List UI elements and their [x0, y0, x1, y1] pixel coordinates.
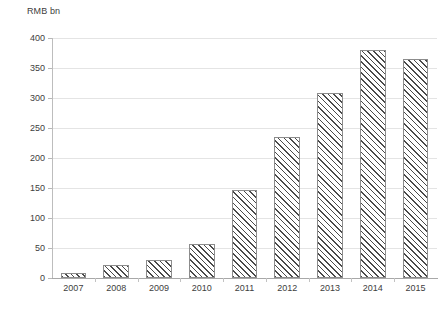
x-tick-label: 2015 — [394, 283, 437, 294]
bar-slot — [266, 38, 309, 278]
bar[interactable] — [103, 265, 129, 278]
x-tick-labels-group: 200720082009201020112012201320142015 — [52, 283, 437, 299]
bar-slot — [180, 38, 223, 278]
y-tick-label: 50 — [35, 244, 45, 253]
x-tick-mark — [394, 278, 395, 282]
bar-slot — [394, 38, 437, 278]
bar[interactable] — [146, 260, 172, 278]
x-tick-mark — [266, 278, 267, 282]
y-tick-label: 0 — [40, 274, 45, 283]
x-tick-mark — [138, 278, 139, 282]
x-tick-label: 2010 — [180, 283, 223, 294]
x-tick-mark — [95, 278, 96, 282]
bar[interactable] — [360, 50, 386, 278]
bar[interactable] — [232, 190, 258, 278]
x-tick-mark — [180, 278, 181, 282]
x-tick-label: 2007 — [52, 283, 95, 294]
bar-chart: RMB bn 050100150200250300350400 20072008… — [0, 0, 447, 311]
y-tick-label: 300 — [30, 94, 45, 103]
y-axis-title: RMB bn — [27, 6, 60, 16]
x-axis-line — [52, 278, 438, 279]
y-tick-label: 400 — [30, 34, 45, 43]
bar-slot — [52, 38, 95, 278]
bar-slot — [223, 38, 266, 278]
bar-slot — [138, 38, 181, 278]
bars-group — [52, 38, 437, 278]
bar[interactable] — [403, 59, 429, 278]
bar-slot — [351, 38, 394, 278]
y-tick-label: 100 — [30, 214, 45, 223]
x-tick-mark — [309, 278, 310, 282]
y-tick-label: 200 — [30, 154, 45, 163]
bar[interactable] — [317, 93, 343, 278]
bar[interactable] — [61, 273, 87, 278]
bar-slot — [309, 38, 352, 278]
y-tick-label: 150 — [30, 184, 45, 193]
bar[interactable] — [189, 244, 215, 278]
x-tick-label: 2012 — [266, 283, 309, 294]
x-tick-label: 2009 — [138, 283, 181, 294]
x-tick-label: 2008 — [95, 283, 138, 294]
x-tick-mark — [223, 278, 224, 282]
x-tick-mark — [351, 278, 352, 282]
y-tick-label: 250 — [30, 124, 45, 133]
x-tick-label: 2011 — [223, 283, 266, 294]
x-tick-label: 2013 — [309, 283, 352, 294]
bar[interactable] — [274, 137, 300, 278]
bar-slot — [95, 38, 138, 278]
x-tick-label: 2014 — [351, 283, 394, 294]
y-tick-label: 350 — [30, 64, 45, 73]
